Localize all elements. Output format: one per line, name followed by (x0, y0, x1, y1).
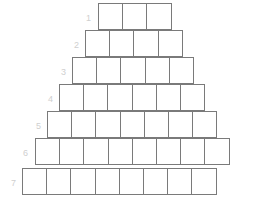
brick-cell[interactable] (120, 57, 145, 84)
brick-cell[interactable] (22, 168, 47, 195)
brick-cell[interactable] (145, 57, 170, 84)
brick-row-1 (98, 3, 172, 30)
brick-cell[interactable] (72, 57, 97, 84)
brick-cell[interactable] (158, 30, 183, 57)
brick-cell[interactable] (146, 3, 171, 30)
row-label-2: 2 (74, 41, 79, 50)
brick-cell[interactable] (83, 84, 108, 111)
brick-cell[interactable] (59, 84, 84, 111)
brick-cell[interactable] (85, 30, 110, 57)
brick-cell[interactable] (83, 138, 108, 165)
brick-cell[interactable] (35, 138, 60, 165)
brick-cell[interactable] (191, 168, 216, 195)
brick-cell[interactable] (204, 138, 229, 165)
brick-cell[interactable] (169, 57, 194, 84)
brick-cell[interactable] (46, 168, 71, 195)
brick-cell[interactable] (180, 84, 205, 111)
brick-row-6 (35, 138, 230, 165)
brick-row-3 (72, 57, 194, 84)
brick-cell[interactable] (156, 84, 181, 111)
brick-cell[interactable] (107, 84, 132, 111)
brick-cell[interactable] (119, 168, 144, 195)
brick-cell[interactable] (144, 111, 169, 138)
brick-cell[interactable] (108, 138, 133, 165)
row-label-4: 4 (48, 95, 53, 104)
row-label-5: 5 (36, 122, 41, 131)
row-label-7: 7 (11, 179, 16, 188)
brick-row-5 (47, 111, 217, 138)
brick-cell[interactable] (192, 111, 217, 138)
brick-cell[interactable] (143, 168, 168, 195)
row-label-6: 6 (23, 149, 28, 158)
row-label-1: 1 (86, 14, 91, 23)
brick-row-4 (59, 84, 205, 111)
brick-cell[interactable] (180, 138, 205, 165)
brick-cell[interactable] (132, 138, 157, 165)
row-label-3: 3 (61, 68, 66, 77)
brick-cell[interactable] (156, 138, 181, 165)
brick-cell[interactable] (168, 111, 193, 138)
brick-cell[interactable] (122, 3, 147, 30)
brick-cell[interactable] (133, 30, 158, 57)
brick-cell[interactable] (95, 168, 120, 195)
brick-row-7 (22, 168, 217, 195)
brick-cell[interactable] (109, 30, 134, 57)
brick-cell[interactable] (96, 57, 121, 84)
brick-cell[interactable] (167, 168, 192, 195)
brick-cell[interactable] (47, 111, 72, 138)
brick-cell[interactable] (132, 84, 157, 111)
brick-cell[interactable] (70, 168, 95, 195)
brick-row-2 (85, 30, 183, 57)
brick-cell[interactable] (95, 111, 120, 138)
brick-cell[interactable] (71, 111, 96, 138)
brick-cell[interactable] (120, 111, 145, 138)
brick-pyramid-figure: 1234567 (0, 0, 263, 204)
brick-cell[interactable] (59, 138, 84, 165)
brick-cell[interactable] (98, 3, 123, 30)
